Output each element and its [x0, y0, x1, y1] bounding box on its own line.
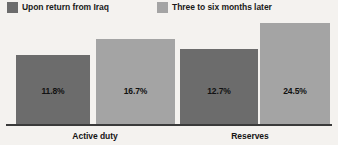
category-label-reserves: Reserves	[210, 131, 290, 141]
bar-chart: Upon return from Iraq Three to six month…	[0, 0, 338, 145]
bar-value-label: 12.7%	[180, 86, 258, 96]
bar-value-label: 11.8%	[16, 86, 90, 96]
bar-value-label: 16.7%	[96, 86, 175, 96]
bar: 16.7%	[96, 39, 175, 124]
bar: 24.5%	[260, 23, 330, 124]
category-label-active-duty: Active duty	[55, 131, 135, 141]
axis-baseline	[6, 124, 332, 126]
bar: 12.7%	[180, 49, 258, 124]
bar-value-label: 24.5%	[260, 86, 330, 96]
bar: 11.8%	[16, 55, 90, 124]
